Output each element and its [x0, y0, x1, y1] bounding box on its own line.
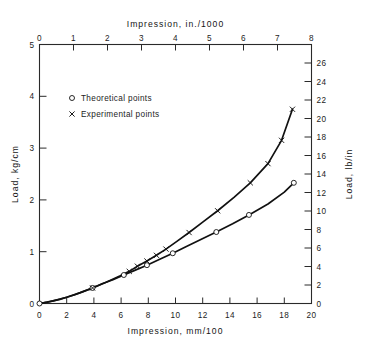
x2-tick-label: 0 [37, 34, 42, 43]
x2-tick-label: 1 [71, 34, 76, 43]
x-tick-label: 18 [279, 311, 289, 320]
marker-circle [170, 251, 175, 256]
y2-tick-label: 24 [317, 78, 327, 87]
series-line-1 [40, 183, 294, 304]
legend-marker-circle [70, 96, 75, 101]
y2-tick-label: 20 [317, 115, 327, 124]
x2-tick-label: 3 [139, 34, 144, 43]
marker-circle [291, 180, 296, 185]
x-tick-label: 16 [252, 311, 262, 320]
y2-tick-label: 22 [317, 96, 327, 105]
x-tick-label: 4 [91, 311, 96, 320]
series-line-2 [40, 109, 293, 303]
marker-circle [214, 230, 219, 235]
x2-tick-label: 7 [275, 34, 280, 43]
y2-tick-label: 18 [317, 133, 327, 142]
x-tick-label: 6 [119, 311, 124, 320]
x-tick-label: 12 [198, 311, 208, 320]
y-tick-label: 1 [30, 248, 35, 257]
x2-tick-label: 2 [105, 34, 110, 43]
y2-tick-label: 14 [317, 170, 327, 179]
y-tick-label: 5 [30, 41, 35, 50]
y2-tick-label: 4 [317, 263, 322, 272]
x-tick-label: 8 [146, 311, 151, 320]
x2-tick-label: 8 [309, 34, 314, 43]
x2-tick-label: 4 [173, 34, 178, 43]
x2-tick-label: 6 [241, 34, 246, 43]
x2-axis-title: Impression, in./1000 [127, 19, 224, 29]
y-axis-title: Load, kg/cm [10, 145, 20, 203]
legend-label-1: Theoretical points [81, 94, 152, 103]
x-tick-label: 10 [171, 311, 181, 320]
y2-tick-label: 0 [317, 300, 322, 309]
y2-tick-label: 8 [317, 226, 322, 235]
legend-label-2: Experimental points [81, 110, 160, 119]
y2-tick-label: 6 [317, 244, 322, 253]
marker-circle [246, 212, 251, 217]
y-tick-label: 0 [30, 300, 35, 309]
x-tick-label: 2 [64, 311, 69, 320]
x-tick-label: 0 [37, 311, 42, 320]
y2-tick-label: 26 [317, 59, 327, 68]
y2-axis-title: Load, lb/in [344, 149, 354, 200]
chart-page: 02468101214161820Impression, mm/10001234… [0, 0, 369, 341]
x-tick-label: 14 [225, 311, 235, 320]
x2-tick-label: 5 [207, 34, 212, 43]
y2-tick-label: 16 [317, 152, 327, 161]
marker-circle [37, 301, 42, 306]
y-tick-label: 2 [30, 196, 35, 205]
x-axis-title: Impression, mm/100 [128, 326, 224, 336]
load-vs-impression-chart: 02468101214161820Impression, mm/10001234… [0, 0, 369, 341]
x-tick-label: 20 [307, 311, 317, 320]
y2-tick-label: 2 [317, 281, 322, 290]
plot-frame [40, 45, 312, 304]
y-tick-label: 3 [30, 144, 35, 153]
marker-circle [121, 273, 126, 278]
y2-tick-label: 12 [317, 189, 327, 198]
y-tick-label: 4 [30, 92, 35, 101]
y2-tick-label: 10 [317, 207, 327, 216]
